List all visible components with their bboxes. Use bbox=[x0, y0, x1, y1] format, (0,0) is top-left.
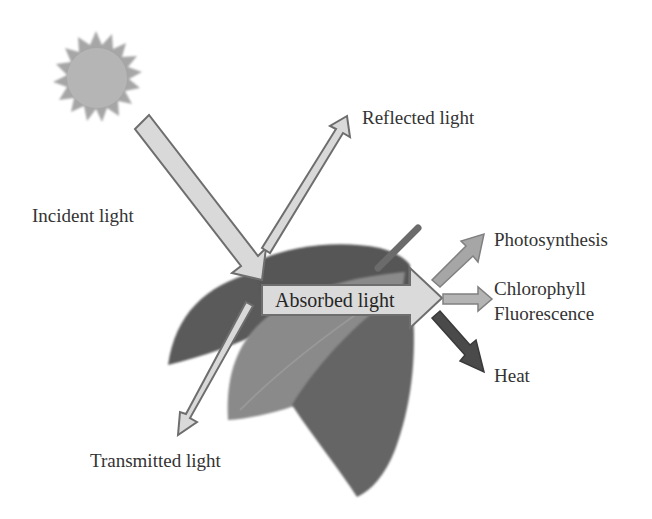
incident-light-arrow bbox=[135, 115, 266, 280]
diagram-artwork bbox=[0, 0, 652, 519]
sun-icon bbox=[53, 31, 142, 122]
chlorophyll-fluorescence-arrow bbox=[443, 287, 492, 311]
light-fate-diagram: Incident light Reflected light Absorbed … bbox=[0, 0, 652, 519]
incident-light-label: Incident light bbox=[32, 205, 134, 227]
transmitted-light-label: Transmitted light bbox=[90, 450, 221, 472]
absorbed-light-label: Absorbed light bbox=[275, 289, 394, 311]
reflected-light-arrow bbox=[262, 116, 350, 253]
photosynthesis-arrow bbox=[432, 234, 484, 287]
fluorescence-label: Fluorescence bbox=[494, 303, 594, 325]
heat-arrow bbox=[432, 311, 484, 372]
chlorophyll-label: Chlorophyll bbox=[494, 278, 586, 300]
reflected-light-label: Reflected light bbox=[362, 107, 474, 129]
heat-label: Heat bbox=[494, 365, 530, 387]
photosynthesis-label: Photosynthesis bbox=[494, 229, 608, 251]
